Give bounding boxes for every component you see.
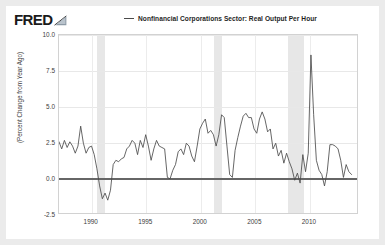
legend-line-swatch [124, 18, 134, 19]
series-line-0 [59, 55, 352, 200]
y-axis-label: (Percent Change from Year Ago) [16, 38, 23, 158]
plot-area [58, 34, 358, 214]
y-tick-label-2: 5.0 [46, 103, 55, 110]
x-tick-label-0: 1990 [84, 218, 98, 225]
fred-wordmark: FRED [14, 13, 52, 27]
legend-label-0: Nonfinancial Corporations Sector: Real O… [138, 15, 317, 22]
x-tick-label-4: 2010 [302, 218, 316, 225]
y-axis-ticks: 10.07.55.02.50.0-2.5 [24, 34, 55, 214]
x-tick-label-3: 2005 [247, 218, 261, 225]
chart-legend: Nonfinancial Corporations Sector: Real O… [124, 15, 317, 22]
plot-inner [59, 35, 357, 213]
y-tick-label-1: 7.5 [46, 67, 55, 74]
fred-logo[interactable]: FRED [14, 13, 67, 27]
x-tick-label-2: 2000 [193, 218, 207, 225]
chart-header: FRED Nonfinancial Corporations Sector: R… [6, 6, 379, 32]
chart-card: FRED Nonfinancial Corporations Sector: R… [6, 6, 379, 239]
x-tick-label-1: 1995 [138, 218, 152, 225]
y-tick-label-0: 10.0 [43, 31, 55, 38]
fred-swoosh-icon [54, 15, 67, 26]
x-axis-ticks: 19901995200020052010 [58, 218, 358, 228]
y-tick-label-5: -2.5 [44, 211, 55, 218]
y-tick-label-3: 2.5 [46, 139, 55, 146]
series-line-layer [59, 35, 357, 213]
y-tick-label-4: 0.0 [46, 175, 55, 182]
fred-chart-figure: FRED Nonfinancial Corporations Sector: R… [0, 0, 385, 245]
